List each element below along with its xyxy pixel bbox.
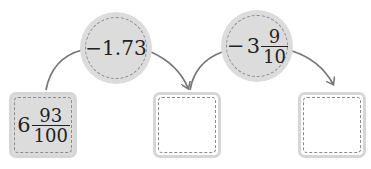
denominator: 10: [262, 47, 287, 66]
numerator: 93: [38, 106, 63, 125]
answer-box-1[interactable]: [153, 92, 221, 158]
operation-value: −1.73: [85, 36, 146, 60]
connector-line: [190, 52, 222, 90]
fraction: 9 10: [262, 27, 287, 66]
connector-line: [46, 50, 82, 90]
start-value-box: 6 93 100: [9, 92, 77, 158]
whole-part: 6: [17, 113, 30, 137]
numerator: 9: [268, 27, 281, 46]
mixed-number: 6 93 100: [17, 106, 69, 145]
arrow-to-result-2: [292, 51, 333, 84]
whole-part: 3: [247, 34, 260, 58]
sign: −: [227, 34, 245, 58]
arrow-to-result-1: [151, 52, 188, 88]
denominator: 100: [33, 126, 69, 145]
answer-box-2[interactable]: [298, 92, 366, 158]
operation-circle-1: −1.73: [80, 12, 152, 84]
fraction: 93 100: [33, 106, 69, 145]
mixed-number: − 3 9 10: [227, 27, 287, 66]
operation-circle-2: − 3 9 10: [221, 10, 293, 82]
